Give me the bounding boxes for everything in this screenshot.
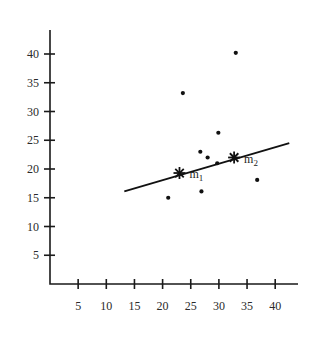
axes: 510152025303540 510152025303540 xyxy=(27,30,298,313)
data-point xyxy=(255,178,259,182)
x-tick-label: 15 xyxy=(128,299,140,313)
y-tick-label: 10 xyxy=(27,220,39,234)
asterisk-mean-icon xyxy=(228,152,240,164)
x-tick-label: 5 xyxy=(75,299,81,313)
y-tick-label: 20 xyxy=(27,162,39,176)
x-tick-label: 35 xyxy=(241,299,253,313)
y-tick-label: 40 xyxy=(27,47,39,61)
y-tick-label: 25 xyxy=(27,133,39,147)
data-point xyxy=(181,91,185,95)
x-tick-label: 40 xyxy=(269,299,281,313)
regression-line-group xyxy=(124,143,289,191)
data-point xyxy=(234,51,238,55)
data-point xyxy=(206,155,210,159)
data-point xyxy=(199,189,203,193)
scatter-chart: 510152025303540 510152025303540 m1m2 xyxy=(0,0,314,347)
x-tick-label: 20 xyxy=(157,299,169,313)
asterisk-mean-icon xyxy=(173,167,185,179)
y-tick-label: 35 xyxy=(27,76,39,90)
data-point xyxy=(216,131,220,135)
x-tick-label: 25 xyxy=(185,299,197,313)
mean-markers: m1m2 xyxy=(173,152,257,184)
data-point xyxy=(166,196,170,200)
axes-lines xyxy=(50,30,298,284)
x-tick-label: 30 xyxy=(213,299,225,313)
y-tick-label: 30 xyxy=(27,105,39,119)
y-tick-label: 5 xyxy=(33,248,39,262)
regression-line xyxy=(124,143,289,191)
mean-label: m2 xyxy=(244,152,258,168)
data-point xyxy=(198,150,202,154)
data-point xyxy=(215,161,219,165)
x-tick-label: 10 xyxy=(100,299,112,313)
y-tick-label: 15 xyxy=(27,191,39,205)
